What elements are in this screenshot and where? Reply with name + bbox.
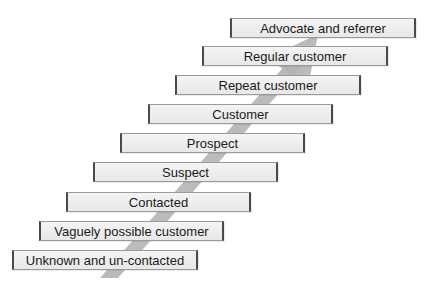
step-label: Prospect [187,137,238,150]
step-regular-customer: Regular customer [202,46,388,66]
step-vaguely-possible-customer: Vaguely possible customer [39,221,224,241]
step-label: Regular customer [244,50,347,63]
step-label: Advocate and referrer [260,22,386,35]
step-customer: Customer [148,104,333,124]
step-contacted: Contacted [66,192,251,212]
step-label: Repeat customer [219,79,318,92]
step-label: Suspect [162,166,209,179]
step-label: Vaguely possible customer [54,225,208,238]
step-label: Contacted [129,196,188,209]
step-suspect: Suspect [93,162,278,182]
step-advocate-and-referrer: Advocate and referrer [230,18,416,38]
step-prospect: Prospect [120,133,305,153]
customer-ladder-diagram: Unknown and un-contacted Vaguely possibl… [0,0,425,289]
step-unknown-and-uncontacted: Unknown and un-contacted [12,250,198,270]
step-label: Unknown and un-contacted [26,254,184,267]
step-repeat-customer: Repeat customer [175,75,361,95]
step-label: Customer [212,108,268,121]
